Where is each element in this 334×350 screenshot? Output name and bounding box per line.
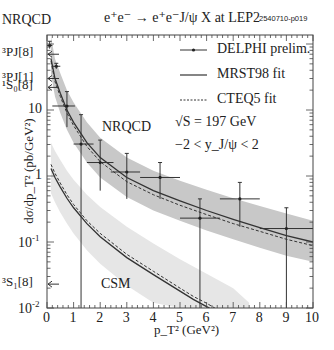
data-point-marker — [125, 170, 128, 173]
legend-mrst98-label: MRST98 fit — [217, 66, 285, 82]
csm-band-label: CSM — [101, 276, 131, 292]
x-tick-label: 1 — [70, 310, 77, 326]
data-point-marker — [99, 161, 102, 164]
legend-sqrt-s: √S = 197 GeV — [175, 114, 256, 130]
data-point-marker — [238, 197, 241, 200]
legend-delphi-point-icon — [192, 48, 195, 51]
data-point-marker — [198, 217, 201, 220]
state-label: ³PJ[8] — [2, 44, 33, 60]
y-tick-label: 10-2 — [18, 299, 40, 317]
x-tick-label: 8 — [256, 310, 263, 326]
state-label: ¹S₀[8] — [2, 77, 33, 93]
legend-rapidity: −2 < y_J/ψ < 2 — [175, 137, 259, 153]
data-point-marker — [55, 65, 58, 68]
data-point-marker — [79, 142, 82, 145]
x-tick-label: 10 — [305, 310, 319, 326]
state-label: ³S₁[8] — [2, 274, 33, 290]
y-tick-exponent: -1 — [32, 233, 40, 243]
data-point-marker — [285, 227, 288, 230]
data-point-marker — [158, 176, 161, 179]
y-tick-label: 1 — [35, 167, 42, 183]
y-tick-exponent: -2 — [32, 299, 40, 309]
nrqcd-band-label: NRQCD — [102, 119, 151, 135]
x-tick-label: 4 — [149, 310, 156, 326]
x-tick-label: 5 — [176, 310, 183, 326]
legend-cteq5-label: CTEQ5 fit — [217, 91, 277, 107]
y-tick-label: 10-1 — [18, 233, 40, 251]
x-tick-label: 0 — [43, 310, 50, 326]
legend-delphi-label: DELPHI prelim. — [217, 41, 310, 57]
y-tick-label: 10 — [28, 101, 42, 117]
x-tick-label: 7 — [229, 310, 236, 326]
x-tick-label: 6 — [203, 310, 210, 326]
x-tick-label: 3 — [123, 310, 130, 326]
data-point-marker — [65, 104, 68, 107]
x-tick-label: 9 — [282, 310, 289, 326]
x-tick-label: 2 — [96, 310, 103, 326]
